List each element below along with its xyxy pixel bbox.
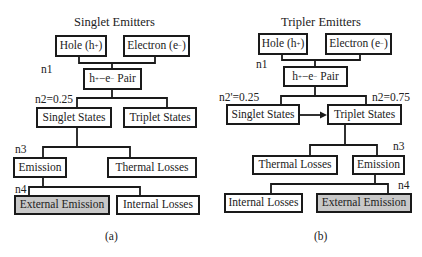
node-label: −e [99, 73, 111, 85]
arrow-head-icon [320, 112, 327, 119]
panel-b-n4-label: n4 [398, 180, 410, 192]
panel-b-internal-losses-node: Internal Losses [224, 193, 303, 213]
panel-a-singlet-node: Singlet States [36, 107, 112, 128]
node-label: Electron (e [329, 38, 380, 50]
node-label: ) [98, 40, 102, 52]
node-label: Electron (e [127, 40, 178, 52]
panel-b-electron-node: Electron (e−) [325, 33, 392, 55]
node-label: ) [384, 38, 388, 50]
panel-b-pair-node: h+−e− Pair [283, 66, 348, 87]
panel-b-triplet-node: Triplet States [327, 104, 402, 125]
node-label: Hole (h [60, 40, 95, 52]
panel-b-n2-label: n2=0.75 [372, 92, 410, 104]
panel-b-external-emission-node: External Emission [316, 193, 412, 213]
node-label: −e [302, 71, 314, 83]
node-label: Hole (h [262, 38, 297, 50]
panel-b-title: Tripler Emitters [281, 16, 361, 29]
node-label: ) [300, 38, 304, 50]
panel-b-thermal-losses-node: Thermal Losses [252, 155, 338, 175]
panel-a-hole-node: Hole (h+) [55, 35, 107, 57]
node-label: Pair [114, 73, 135, 85]
figure: Singlet Emitters Hole (h+) Electron (e−)… [0, 0, 422, 257]
panel-a-title: Singlet Emitters [74, 16, 155, 29]
panel-b-n3-label: n3 [393, 141, 405, 153]
panel-a-n1-label: n1 [41, 64, 53, 76]
panel-a-electron-node: Electron (e−) [123, 35, 190, 57]
panel-a-pair-node: h+−e− Pair [83, 68, 142, 90]
panel-a-n3-label: n3 [15, 144, 27, 156]
panel-b-hole-node: Hole (h+) [258, 33, 308, 55]
node-label: Pair [317, 71, 338, 83]
node-label: ) [182, 40, 186, 52]
panel-a-triplet-node: Triplet States [123, 107, 197, 128]
panel-a-n4-label: n4 [15, 184, 27, 196]
panel-b-n1-label: n1 [256, 59, 268, 71]
panel-a-caption: (a) [105, 231, 118, 243]
panel-b-emission-node: Emission [352, 155, 405, 175]
panel-a-emission-node: Emission [13, 157, 67, 178]
panel-a-external-emission-node: External Emission [14, 195, 110, 215]
panel-b-singlet-node: Singlet States [226, 104, 300, 125]
panel-b-n2-prime-label: n2'=0.25 [219, 92, 259, 104]
panel-a-n2-label: n2=0.25 [35, 94, 73, 106]
panel-a-internal-losses-node: Internal Losses [116, 195, 200, 215]
panel-b-caption: (b) [314, 231, 327, 243]
panel-a-thermal-losses-node: Thermal Losses [107, 157, 197, 178]
